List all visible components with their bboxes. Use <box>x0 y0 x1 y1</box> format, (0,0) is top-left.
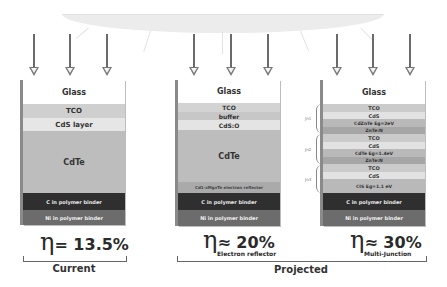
down-arrow-icon <box>405 34 415 76</box>
bracket-current <box>23 256 127 262</box>
stack-current-cdte: GlassTCOCdS layerCdTeC in polymer binder… <box>23 80 125 225</box>
layer-ni-in-polymer-binder: Ni in polymer binder <box>323 210 425 226</box>
layer-cdte: CdTe <box>178 130 280 182</box>
group-label-projected: Projected <box>177 264 425 275</box>
down-arrow-icon <box>368 34 378 76</box>
down-arrow-icon <box>29 34 39 76</box>
layer-tco: TCO <box>323 164 425 172</box>
layer-tco: TCO <box>323 134 425 142</box>
junction-label-2: Jn2 <box>305 147 311 152</box>
junction-brace-2 <box>316 134 323 164</box>
layer-glass: Glass <box>23 80 125 104</box>
layer-c-in-polymer-binder: C in polymer binder <box>323 193 425 210</box>
light-ray <box>300 31 309 52</box>
layer-cdznte-eg-2ev: CdZnTe Eg=2eV <box>323 119 425 127</box>
stack-electron-reflector: GlassTCObufferCdS:OCdTeCd1-xMgxTe electr… <box>178 80 280 226</box>
layer-cds: CdS <box>323 172 425 179</box>
layer-cds-o: CdS:O <box>178 120 280 130</box>
layer-cds-layer: CdS layer <box>23 118 125 131</box>
layer-cd1-xmgxte-electron-reflector: Cd1-xMgxTe electron reflector <box>178 182 280 193</box>
junction-brace-1 <box>316 104 323 133</box>
layer-buffer: buffer <box>178 112 280 120</box>
eta-symbol: η <box>40 228 54 256</box>
layer-c-in-polymer-binder: C in polymer binder <box>23 193 125 210</box>
down-arrow-icon <box>332 34 342 76</box>
efficiency-value: = 13.5% <box>54 235 128 254</box>
layer-cds: CdS <box>323 112 425 119</box>
layer-tco: TCO <box>323 104 425 112</box>
layer-ni-in-polymer-binder: Ni in polymer binder <box>178 210 280 226</box>
light-ray <box>76 28 89 39</box>
down-arrow-icon <box>102 34 112 76</box>
down-arrow-icon <box>226 34 236 76</box>
layer-cds: CdS <box>323 142 425 149</box>
layer-tco: TCO <box>23 104 125 118</box>
junction-label-3: Jn3 <box>305 177 311 182</box>
layer-glass: Glass <box>323 80 425 104</box>
group-label-current: Current <box>23 263 125 274</box>
layer-znte-n: ZnTe:N <box>323 157 425 164</box>
bracket-projected <box>177 256 427 262</box>
layer-znte-n: ZnTe:N <box>323 127 425 134</box>
layer-cdte-eg-1-4ev: CdTe Eg=1.4eV <box>323 149 425 157</box>
layer-cdte: CdTe <box>23 131 125 193</box>
light-source-band <box>62 14 384 33</box>
efficiency-electron-reflector: η≈ 20% Electron reflector <box>203 226 275 254</box>
light-ray <box>143 31 151 52</box>
junction-brace-3 <box>316 165 323 193</box>
layer-glass: Glass <box>178 80 280 103</box>
eta-symbol: η <box>350 226 364 254</box>
layer-ni-in-polymer-binder: Ni in polymer binder <box>23 210 125 225</box>
efficiency-multi-junction: η≈ 30% Multi-Junction <box>350 226 422 254</box>
down-arrow-icon <box>189 34 199 76</box>
down-arrow-icon <box>65 34 75 76</box>
layer-c-in-polymer-binder: C in polymer binder <box>178 193 280 210</box>
stack-multi-junction: GlassTCOCdSCdZnTe Eg=2eVZnTe:NTCOCdSCdTe… <box>323 80 425 226</box>
layer-tco: TCO <box>178 103 280 112</box>
junction-label-1: Jn1 <box>305 116 311 121</box>
layer-cis-eg-1-1-ev: CIS Eg=1.1 eV <box>323 179 425 193</box>
down-arrow-icon <box>263 34 273 76</box>
efficiency-current: η= 13.5% <box>40 228 129 256</box>
eta-symbol: η <box>203 226 217 254</box>
light-ray <box>222 32 223 54</box>
